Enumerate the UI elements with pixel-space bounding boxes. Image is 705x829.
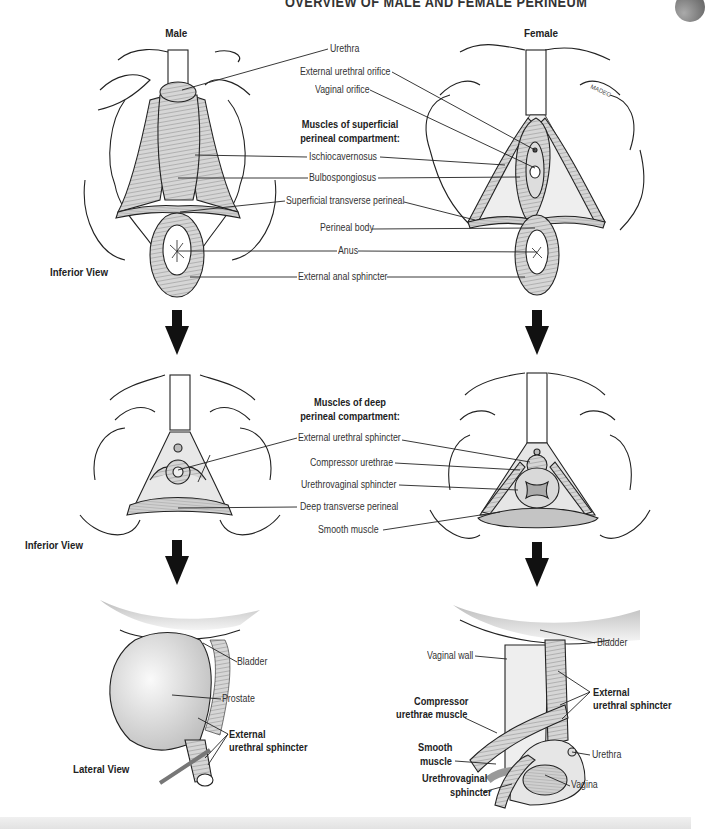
label-urethrovaginal-line2: sphincter — [450, 786, 492, 798]
label-smooth-muscle: Smooth muscle — [318, 524, 379, 535]
label-smooth-line2: muscle — [420, 755, 452, 767]
deep-compartment-heading-line1: Muscles of deep — [288, 396, 411, 408]
label-vaginal-wall: Vaginal wall — [427, 650, 473, 661]
label-anus: Anus — [338, 245, 358, 256]
label-urethra: Urethra — [330, 43, 359, 54]
label-male-bladder: Bladder — [237, 656, 267, 667]
view-label-inferior-2: Inferior View — [25, 539, 83, 551]
label-perineal-body: Perineal body — [320, 222, 374, 233]
label-ischiocavernosus: Ischiocavernosus — [309, 151, 377, 162]
label-smooth-line1: Smooth — [418, 741, 452, 753]
label-male-ext-sphincter-line1: External — [229, 728, 265, 740]
superficial-compartment-heading-line1: Muscles of superficial — [288, 118, 411, 130]
label-prostate: Prostate — [222, 693, 255, 704]
column-title-female: Female — [524, 27, 558, 39]
label-external-anal-sphincter: External anal sphincter — [298, 271, 388, 282]
view-label-lateral: Lateral View — [73, 763, 129, 775]
down-arrow-icon — [165, 540, 189, 585]
label-urethrovaginal-sphincter: Urethrovaginal sphincter — [301, 479, 396, 490]
label-female-bladder: Bladder — [597, 637, 627, 648]
label-bulbospongiosus: Bulbospongiosus — [309, 172, 376, 183]
male-deep-illustration — [80, 375, 280, 535]
down-arrow-icon — [525, 310, 549, 355]
female-superficial-illustration: MADEG — [426, 45, 644, 295]
label-deep-transverse-perineal: Deep transverse perineal — [300, 501, 398, 512]
down-arrow-icon — [525, 542, 549, 587]
label-vagina: Vagina — [571, 779, 598, 790]
label-compressor-urethrae: Compressor urethrae — [310, 457, 393, 468]
label-male-ext-sphincter-line2: urethral sphincter — [229, 741, 308, 753]
page-bottom-edge — [0, 817, 691, 829]
label-urethrovaginal-line1: Urethrovaginal — [422, 772, 487, 784]
superficial-compartment-heading-line2: perineal compartment: — [288, 132, 411, 144]
female-deep-illustration — [430, 373, 650, 538]
down-arrow-icon — [165, 310, 189, 355]
label-external-urethral-sphincter: External urethral sphincter — [298, 432, 401, 443]
label-external-urethral-orifice: External urethral orifice — [300, 66, 390, 77]
label-compressor-line1: Compressor — [414, 695, 468, 707]
label-vaginal-orifice: Vaginal orifice — [315, 84, 370, 95]
label-female-ext-sphincter-line2: urethral sphincter — [593, 699, 672, 711]
label-female-ext-sphincter-line1: External — [593, 686, 629, 698]
label-female-urethra: Urethra — [592, 749, 621, 760]
male-superficial-illustration — [84, 50, 275, 297]
label-superficial-transverse-perineal: Superficial transverse perineal — [286, 195, 404, 206]
deep-compartment-heading-line2: perineal compartment: — [288, 410, 411, 422]
label-compressor-line2: urethrae muscle — [396, 708, 467, 720]
view-label-inferior-1: Inferior View — [50, 266, 108, 278]
column-title-male: Male — [165, 27, 187, 39]
